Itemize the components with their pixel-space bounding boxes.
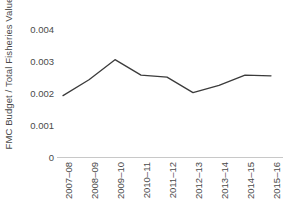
line-chart: FMC Budget / Total Fisheries Value 0.004…	[0, 0, 283, 217]
y-tick-label: 0.001	[8, 121, 54, 131]
x-tick-label: 2012–13	[193, 160, 205, 216]
x-tick-label: 2007–08	[63, 160, 75, 216]
x-tick-label: 2008–09	[89, 160, 101, 216]
x-tick-label: 2015–16	[271, 160, 283, 216]
x-tick-label: 2009–10	[115, 160, 127, 216]
x-tick-label: 2014–15	[245, 160, 257, 216]
x-tick-label: 2011–12	[167, 160, 179, 216]
x-axis-tick-labels: 2007–08 2008–09 2009–10 2010–11 2011–12 …	[57, 160, 283, 217]
y-tick-label: 0.004	[8, 25, 54, 35]
x-tick-label: 2010–11	[141, 160, 153, 216]
y-tick-label: 0	[8, 153, 54, 163]
y-tick-label: 0.003	[8, 57, 54, 67]
y-axis-tick-labels: 0.004 0.003 0.002 0.001 0	[8, 0, 54, 217]
x-tick-label: 2013–14	[219, 160, 231, 216]
y-tick-label: 0.002	[8, 89, 54, 99]
